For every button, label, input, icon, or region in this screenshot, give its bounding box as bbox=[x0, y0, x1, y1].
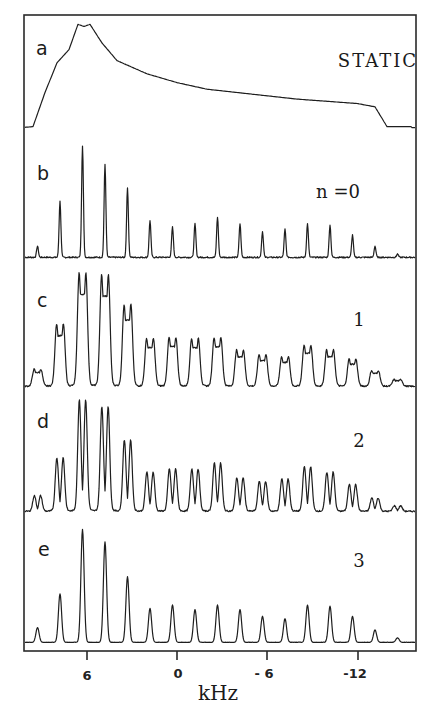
panel-label-b: b bbox=[37, 162, 49, 184]
panel-label-c: c bbox=[37, 289, 47, 311]
x-axis-label: kHz bbox=[198, 681, 238, 705]
panel-annotation-c: 1 bbox=[353, 309, 364, 330]
panel-annotation-d: 2 bbox=[353, 430, 364, 451]
panel-annotation-b: n =0 bbox=[316, 181, 360, 202]
panel-annotation-a: STATIC bbox=[338, 50, 418, 71]
panel-label-e: e bbox=[38, 538, 50, 560]
spectra-figure: a b c d e STATIC n =0 1 2 3 6 0 - 6 -12 … bbox=[0, 0, 447, 727]
x-tick-label-6: 6 bbox=[82, 668, 91, 683]
x-axis: 6 0 - 6 -12 kHz bbox=[82, 651, 366, 705]
spectrum-trace-d bbox=[25, 400, 415, 512]
panel-label-d: d bbox=[37, 410, 49, 432]
spectrum-trace-e bbox=[25, 529, 415, 642]
x-tick-label-minus12: -12 bbox=[343, 666, 367, 681]
x-tick-label-0: 0 bbox=[173, 666, 182, 681]
spectrum-trace-b bbox=[25, 146, 415, 258]
x-tick-label-minus6: - 6 bbox=[255, 666, 274, 681]
panel-label-a: a bbox=[36, 37, 48, 59]
spectrum-trace-a bbox=[25, 24, 415, 127]
panel-annotation-e: 3 bbox=[353, 550, 364, 571]
